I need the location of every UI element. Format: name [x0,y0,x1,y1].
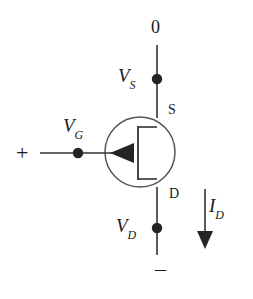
top-node-label: 0 [151,18,160,36]
gate-voltage-label: VG [63,116,83,138]
gate-node-dot [73,148,83,158]
source-voltage-label: VS [118,66,136,88]
drain-terminal-label: D [169,185,179,201]
drain-node-dot [152,223,162,233]
plus-sign-text: + [16,140,28,165]
source-voltage-subscript: S [130,78,136,92]
drain-voltage-subscript: D [128,228,137,242]
drain-current-label: ID [209,196,224,218]
source-terminal-label: S [168,101,176,117]
drain-voltage-symbol: V [116,215,128,236]
drain-current-arrowhead [197,231,213,249]
top-node-text: 0 [151,17,160,37]
drain-voltage-label: VD [116,216,136,238]
drain-current-subscript: D [215,208,224,222]
minus-sign-text: – [155,256,166,281]
fet-gate-arrowhead [110,143,134,163]
gate-voltage-subscript: G [75,128,84,142]
source-voltage-symbol: V [118,65,130,86]
positive-terminal-label: + [16,142,28,164]
schematic-canvas: 0 VS S VG + D VD ID – [0,0,253,299]
source-terminal-text: S [168,102,176,117]
source-node-dot [152,74,162,84]
drain-terminal-text: D [169,186,179,201]
gate-voltage-symbol: V [63,115,75,136]
circuit-schematic-svg [0,0,253,299]
negative-terminal-label: – [155,258,166,280]
